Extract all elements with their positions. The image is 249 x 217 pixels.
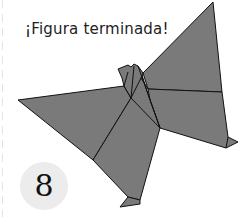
right-wing: [143, 2, 222, 92]
step-number: 8: [34, 171, 53, 201]
step-number-badge: 8: [20, 162, 68, 210]
right-body-panel: [148, 89, 238, 148]
